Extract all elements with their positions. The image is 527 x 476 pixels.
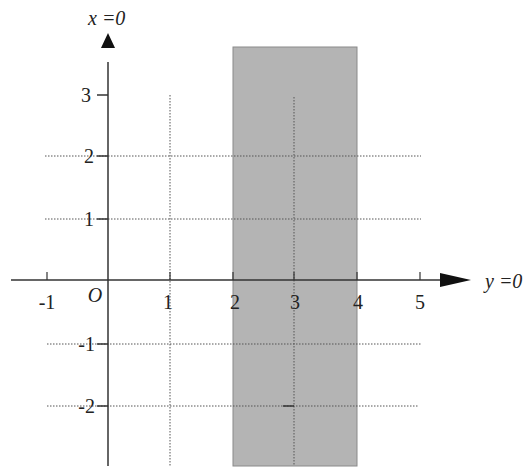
htick-label-1: 1 bbox=[163, 291, 173, 313]
vtick-label-3: 3 bbox=[81, 84, 91, 106]
horizontal-axis-ticks bbox=[47, 272, 420, 280]
vtick-label-2: 2 bbox=[84, 145, 94, 167]
vertical-axis-arrow-icon bbox=[101, 33, 115, 48]
htick-label-2: 2 bbox=[230, 291, 240, 313]
horizontal-axis-arrow-icon bbox=[440, 273, 471, 287]
htick-label-3: 3 bbox=[290, 291, 300, 313]
vertical-axis-ticks bbox=[97, 95, 108, 406]
coordinate-plane-diagram: -1 1 2 3 4 5 3 2 1 -1 -2 O x =0 y =0 bbox=[0, 0, 527, 476]
vtick-label-1: 1 bbox=[84, 208, 94, 230]
vtick-label-neg2: -2 bbox=[78, 395, 95, 417]
vertical-axis-label: x =0 bbox=[87, 7, 125, 29]
vtick-label-neg1: -1 bbox=[78, 333, 95, 355]
htick-label-5: 5 bbox=[415, 291, 425, 313]
shaded-region bbox=[233, 47, 357, 466]
horizontal-axis-label: y =0 bbox=[483, 270, 522, 293]
htick-label-4: 4 bbox=[353, 291, 363, 313]
htick-label-neg1: -1 bbox=[39, 291, 56, 313]
origin-label: O bbox=[88, 284, 102, 306]
